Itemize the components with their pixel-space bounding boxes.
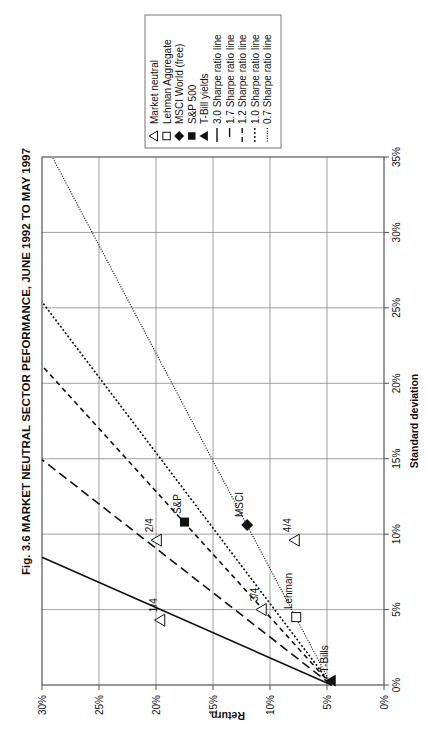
legend: Market neutralLehman AggregateMSCI World… [145, 15, 281, 148]
legend-label: Lehman Aggregate [162, 39, 173, 124]
std-axis-ticks: 0%5%10%15%20%25%30%35% [384, 147, 402, 692]
std-tick-label: 10% [391, 524, 402, 544]
return-tick-label: 30% [37, 695, 48, 715]
square-marker [188, 132, 196, 140]
std-tick-label: 5% [391, 602, 402, 617]
return-tick-label: 10% [265, 695, 276, 715]
std-tick-label: 15% [391, 449, 402, 469]
legend-label: MSCI World (free) [174, 44, 185, 124]
legend-label: 1.7 Sharpe ratio line [225, 34, 236, 124]
point-label: 2/4 [144, 518, 155, 532]
point-label: 3/4 [249, 587, 260, 601]
chart-figure: Fig. 3.6 MARKET NEUTRAL SECTOR PEFORMANC… [0, 0, 428, 742]
point-label: MSCI [234, 492, 245, 517]
y-axis-label: Return [211, 710, 245, 722]
diamond-marker [241, 519, 253, 531]
grid [42, 157, 384, 685]
std-tick-label: 25% [391, 298, 402, 318]
std-tick-label: 35% [391, 147, 402, 167]
return-tick-label: 25% [94, 695, 105, 715]
legend-label: 3.0 Sharpe ratio line [212, 34, 223, 124]
triangle-marker [256, 604, 266, 616]
point-label: Lehman [283, 573, 294, 609]
legend-label: 1.0 Sharpe ratio line [250, 34, 261, 124]
legend-label: Market neutral [149, 60, 160, 124]
legend-label: 0.7 Sharpe ratio line [262, 34, 273, 124]
legend-label: T-Bill yields [199, 73, 210, 124]
legend-label: S&P 500 [187, 84, 198, 124]
square-marker [163, 132, 171, 140]
square-marker [180, 518, 189, 527]
square-marker [292, 613, 301, 622]
std-tick-label: 20% [391, 373, 402, 393]
return-tick-label: 0% [379, 695, 390, 710]
point-label: T-Bills [319, 645, 330, 672]
x-axis-label: Standard deviation [408, 374, 420, 469]
triangle-marker [289, 534, 299, 546]
std-tick-label: 0% [391, 678, 402, 693]
point-label: 4/4 [282, 518, 293, 532]
point-label: S&P [172, 494, 183, 514]
legend-label: 1.2 Sharpe ratio line [237, 34, 248, 124]
return-tick-label: 5% [322, 695, 333, 710]
return-tick-label: 20% [151, 695, 162, 715]
std-tick-label: 30% [391, 222, 402, 242]
point-label: 1/4 [148, 598, 159, 612]
chart-title: Fig. 3.6 MARKET NEUTRAL SECTOR PEFORMANC… [20, 148, 32, 575]
